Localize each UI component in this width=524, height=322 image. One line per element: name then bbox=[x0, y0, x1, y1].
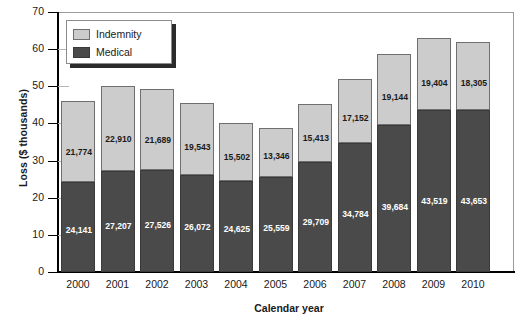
bar-segment-indemnity[interactable]: 18,305 bbox=[456, 42, 490, 110]
bar-segment-indemnity[interactable]: 19,404 bbox=[417, 38, 451, 110]
y-tick-mark bbox=[48, 49, 58, 50]
bar-segment-medical[interactable]: 27,526 bbox=[140, 170, 174, 272]
bar-value-label-indemnity: 15,502 bbox=[220, 152, 254, 162]
y-tick-mark bbox=[48, 86, 58, 87]
y-tick-label: 60 bbox=[0, 42, 44, 54]
legend-item-label: Indemnity bbox=[96, 28, 142, 40]
bar-value-label-indemnity: 15,413 bbox=[299, 133, 333, 143]
bar-segment-medical[interactable]: 29,709 bbox=[298, 162, 332, 272]
y-tick-label: 50 bbox=[0, 79, 44, 91]
y-tick-mark bbox=[48, 123, 58, 124]
y-tick-mark bbox=[48, 161, 58, 162]
bar-value-label-indemnity: 19,404 bbox=[418, 78, 452, 88]
y-tick-label: 10 bbox=[0, 228, 44, 240]
legend-item-label: Medical bbox=[96, 46, 132, 58]
bar-group[interactable]: 26,07219,543 bbox=[180, 12, 214, 272]
bar-segment-medical[interactable]: 34,784 bbox=[338, 143, 372, 272]
bar-value-label-indemnity: 21,689 bbox=[141, 135, 175, 145]
y-tick-label: 0 bbox=[0, 265, 44, 277]
x-axis-title: Calendar year bbox=[58, 302, 520, 314]
bar-group[interactable]: 34,78417,152 bbox=[338, 12, 372, 272]
y-tick-mark bbox=[48, 272, 58, 273]
x-tick-label: 2010 bbox=[448, 278, 498, 290]
legend: IndemnityMedical bbox=[66, 20, 172, 64]
bar-segment-medical[interactable]: 25,559 bbox=[259, 177, 293, 272]
y-tick-label: 30 bbox=[0, 154, 44, 166]
bar-segment-medical[interactable]: 43,653 bbox=[456, 110, 490, 272]
bar-segment-medical[interactable]: 39,684 bbox=[377, 125, 411, 272]
y-tick-label: 20 bbox=[0, 191, 44, 203]
bar-segment-indemnity[interactable]: 15,413 bbox=[298, 104, 332, 161]
bar-segment-indemnity[interactable]: 15,502 bbox=[219, 123, 253, 181]
bar-segment-indemnity[interactable]: 19,543 bbox=[180, 103, 214, 176]
y-tick-label: 70 bbox=[0, 5, 44, 17]
bar-value-label-medical: 29,709 bbox=[299, 217, 333, 227]
bar-group[interactable]: 39,68419,144 bbox=[377, 12, 411, 272]
legend-item-indemnity[interactable]: Indemnity bbox=[73, 25, 165, 43]
bar-segment-indemnity[interactable]: 22,910 bbox=[101, 86, 135, 171]
bar-value-label-indemnity: 19,144 bbox=[378, 92, 412, 102]
bar-value-label-medical: 24,625 bbox=[220, 224, 254, 234]
bar-segment-medical[interactable]: 27,207 bbox=[101, 171, 135, 272]
bar-value-label-medical: 25,559 bbox=[260, 223, 294, 233]
bar-segment-indemnity[interactable]: 17,152 bbox=[338, 79, 372, 143]
bar-value-label-medical: 43,653 bbox=[457, 196, 491, 206]
bar-segment-medical[interactable]: 26,072 bbox=[180, 175, 214, 272]
bar-value-label-medical: 34,784 bbox=[339, 209, 373, 219]
bar-segment-medical[interactable]: 43,519 bbox=[417, 110, 451, 272]
bar-value-label-medical: 43,519 bbox=[418, 196, 452, 206]
bar-segment-medical[interactable]: 24,141 bbox=[61, 182, 95, 272]
bar-group[interactable]: 25,55913,346 bbox=[259, 12, 293, 272]
bar-segment-medical[interactable]: 24,625 bbox=[219, 181, 253, 272]
bar-group[interactable]: 43,65318,305 bbox=[456, 12, 490, 272]
bar-value-label-medical: 27,207 bbox=[102, 221, 136, 231]
bar-value-label-indemnity: 13,346 bbox=[260, 151, 294, 161]
bar-value-label-medical: 24,141 bbox=[62, 225, 96, 235]
y-tick-label: 40 bbox=[0, 116, 44, 128]
y-tick-mark bbox=[48, 198, 58, 199]
bar-value-label-medical: 26,072 bbox=[181, 222, 215, 232]
y-tick-mark bbox=[48, 12, 58, 13]
bar-value-label-medical: 39,684 bbox=[378, 202, 412, 212]
bar-value-label-indemnity: 21,774 bbox=[62, 147, 96, 157]
stacked-bar-chart: Loss ($ thousands) Calendar year 0102030… bbox=[0, 0, 524, 322]
bar-value-label-indemnity: 19,543 bbox=[181, 142, 215, 152]
bar-value-label-indemnity: 22,910 bbox=[102, 134, 136, 144]
y-axis-title: Loss ($ thousands) bbox=[17, 23, 29, 253]
bar-group[interactable]: 24,62515,502 bbox=[219, 12, 253, 272]
bar-value-label-medical: 27,526 bbox=[141, 220, 175, 230]
bar-segment-indemnity[interactable]: 19,144 bbox=[377, 54, 411, 125]
bar-group[interactable]: 43,51919,404 bbox=[417, 12, 451, 272]
bar-segment-indemnity[interactable]: 21,689 bbox=[140, 89, 174, 170]
y-tick-mark bbox=[48, 235, 58, 236]
bar-segment-indemnity[interactable]: 21,774 bbox=[61, 101, 95, 182]
legend-item-medical[interactable]: Medical bbox=[73, 43, 165, 61]
bar-group[interactable]: 29,70915,413 bbox=[298, 12, 332, 272]
bar-value-label-indemnity: 18,305 bbox=[457, 78, 491, 88]
legend-swatch-medical-icon bbox=[73, 47, 90, 58]
bar-segment-indemnity[interactable]: 13,346 bbox=[259, 128, 293, 178]
bar-value-label-indemnity: 17,152 bbox=[339, 113, 373, 123]
legend-swatch-indemnity-icon bbox=[73, 29, 90, 40]
